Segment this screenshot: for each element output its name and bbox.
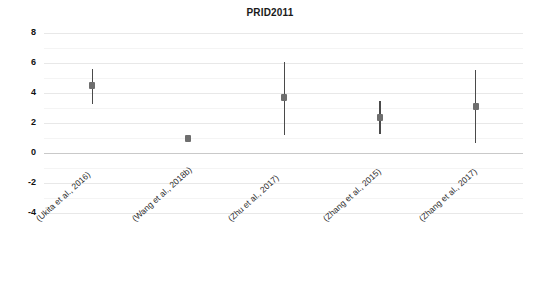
data-point-marker[interactable] bbox=[281, 94, 287, 101]
chart-container: PRID2011 RANK 86420-2-4 (Ukita et al., 2… bbox=[0, 0, 540, 303]
data-point-marker[interactable] bbox=[473, 103, 479, 110]
data-point-group bbox=[92, 33, 93, 213]
y-tick-label-8: 8 bbox=[6, 27, 36, 37]
data-point-group bbox=[475, 33, 476, 213]
y-tick-label-4: 4 bbox=[6, 87, 36, 97]
data-point-marker[interactable] bbox=[89, 82, 95, 89]
data-point-marker[interactable] bbox=[185, 135, 191, 142]
y-tick-label-6: 6 bbox=[6, 57, 36, 67]
data-point-group bbox=[188, 33, 189, 213]
y-tick-label-2: 2 bbox=[6, 117, 36, 127]
data-point-group bbox=[284, 33, 285, 213]
gridline--4 bbox=[44, 213, 523, 214]
y-tick-label-0: 0 bbox=[6, 147, 36, 157]
data-point-marker[interactable] bbox=[377, 114, 383, 121]
x-axis-labels: (Ukita et al., 2016)(Wang et al., 2018b)… bbox=[44, 216, 523, 303]
y-tick-label--4: -4 bbox=[6, 207, 36, 217]
y-tick-label--2: -2 bbox=[6, 177, 36, 187]
data-point-group bbox=[379, 33, 380, 213]
chart-title: PRID2011 bbox=[0, 7, 540, 18]
